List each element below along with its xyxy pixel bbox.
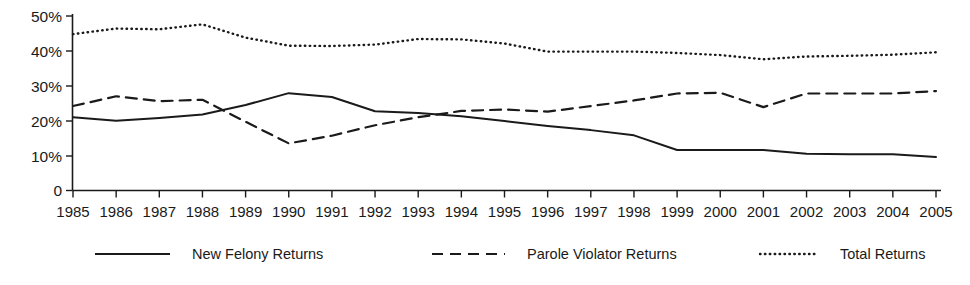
x-tick-label-1991: 1991 [315, 203, 348, 220]
x-tick-label-1989: 1989 [229, 203, 262, 220]
x-tick-label-1990: 1990 [272, 203, 305, 220]
x-tick-label-2005: 2005 [919, 203, 952, 220]
x-tick-label-1994: 1994 [445, 203, 478, 220]
x-axis-ticks [73, 191, 936, 198]
x-tick-label-1999: 1999 [660, 203, 693, 220]
x-tick-label-2000: 2000 [704, 203, 737, 220]
y-tick-label-20: 20% [31, 113, 62, 130]
legend-label-parole-violator-returns: Parole Violator Returns [527, 246, 677, 262]
series-line-new-felony-returns [73, 93, 936, 157]
series-line-parole-violator-returns [73, 91, 936, 143]
x-tick-label-1998: 1998 [617, 203, 650, 220]
x-tick-label-1988: 1988 [186, 203, 219, 220]
y-tick-label-10: 10% [31, 148, 62, 165]
legend-label-new-felony-returns: New Felony Returns [192, 246, 323, 262]
x-axis-tick-labels: 1985198619871988198919901991199219931994… [56, 203, 952, 220]
legend-label-total-returns: Total Returns [840, 246, 925, 262]
y-tick-label-50: 50% [31, 8, 62, 25]
y-axis-tick-labels: 50% 40% 30% 20% 10% 0 [31, 8, 62, 199]
y-tick-label-40: 40% [31, 43, 62, 60]
x-tick-label-2001: 2001 [747, 203, 780, 220]
chart-canvas: 50% 40% 30% 20% 10% 0 198519861987198819… [0, 0, 970, 285]
x-tick-label-1986: 1986 [99, 203, 132, 220]
x-tick-label-1993: 1993 [402, 203, 435, 220]
x-tick-label-1996: 1996 [531, 203, 564, 220]
y-axis-ticks [66, 16, 73, 191]
x-tick-label-1985: 1985 [56, 203, 89, 220]
series-line-total-returns [73, 24, 936, 59]
line-chart: 50% 40% 30% 20% 10% 0 198519861987198819… [0, 0, 970, 285]
x-tick-label-1992: 1992 [358, 203, 391, 220]
x-tick-label-1995: 1995 [488, 203, 521, 220]
y-tick-label-0: 0 [53, 182, 62, 199]
x-tick-label-2004: 2004 [876, 203, 909, 220]
x-tick-label-1987: 1987 [143, 203, 176, 220]
x-tick-label-1997: 1997 [574, 203, 607, 220]
x-tick-label-2003: 2003 [833, 203, 866, 220]
legend: New Felony Returns Parole Violator Retur… [95, 246, 925, 262]
x-tick-label-2002: 2002 [790, 203, 823, 220]
series-group [73, 24, 936, 157]
y-tick-label-30: 30% [31, 78, 62, 95]
